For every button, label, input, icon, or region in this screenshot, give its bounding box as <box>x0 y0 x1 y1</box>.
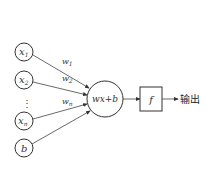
diagram-svg: x1 x2 xn b ⋮ w1 w2 wn wx+b f 输出 <box>0 0 214 173</box>
weight-label-wn: wn <box>62 97 73 107</box>
perceptron-diagram: x1 x2 xn b ⋮ w1 w2 wn wx+b f 输出 <box>0 0 214 173</box>
weight-label-w1: w1 <box>62 57 73 67</box>
edge-x2 <box>33 82 87 95</box>
input-label-b: b <box>21 143 27 154</box>
edge-x1 <box>33 55 89 88</box>
edge-b <box>32 111 90 144</box>
output-label: 输出 <box>180 93 200 105</box>
sum-node-label: wx+b <box>92 94 118 104</box>
ellipsis: ⋮ <box>22 98 32 109</box>
weight-label-w2: w2 <box>62 74 73 84</box>
edge-xn <box>33 104 87 119</box>
